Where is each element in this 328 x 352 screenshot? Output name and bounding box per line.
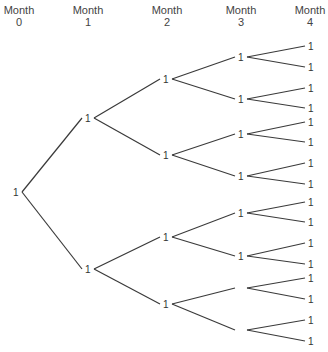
node-month4-11: 1 (308, 259, 314, 270)
branch-line (172, 79, 235, 99)
node-month4-3: 1 (308, 103, 314, 114)
branch-line (172, 237, 235, 256)
node-month4-1: 1 (308, 62, 314, 73)
node-month2-2: 1 (163, 232, 169, 243)
branch-line (94, 237, 160, 269)
node-month3-0: 1 (238, 52, 244, 63)
node-month2-1: 1 (163, 150, 169, 161)
node-month1-1: 1 (85, 264, 91, 275)
branch-line (247, 134, 305, 142)
branch-line (172, 304, 235, 330)
branch-line (247, 163, 305, 176)
node-month4-0: 1 (308, 41, 314, 52)
branch-line (247, 256, 305, 264)
node-month4-15: 1 (308, 336, 314, 347)
branch-line (247, 243, 305, 256)
node-month3-2: 1 (238, 129, 244, 140)
node-month3-3: 1 (238, 171, 244, 182)
node-month4-12: 1 (308, 273, 314, 284)
node-month4-8: 1 (308, 197, 314, 208)
branch-line (247, 46, 305, 57)
branch-line (247, 99, 305, 108)
branch-line (247, 213, 305, 222)
node-month4-7: 1 (308, 179, 314, 190)
node-month4-14: 1 (308, 315, 314, 326)
branch-line (94, 269, 160, 304)
branch-line (172, 288, 235, 304)
branch-line (247, 320, 305, 330)
branch-line (172, 155, 235, 176)
branch-line (247, 330, 305, 341)
branch-line (247, 88, 305, 99)
node-month3-4: 1 (238, 208, 244, 219)
node-month4-10: 1 (308, 238, 314, 249)
node-month4-6: 1 (308, 158, 314, 169)
tree-canvas: 11111111111111111111111111111 (0, 0, 328, 352)
branch-line (94, 79, 160, 118)
node-month4-4: 1 (308, 117, 314, 128)
branch-line (247, 57, 305, 67)
node-month4-2: 1 (308, 83, 314, 94)
branch-line (22, 118, 82, 192)
node-month2-3: 1 (163, 299, 169, 310)
branch-line (247, 202, 305, 213)
node-month1-0: 1 (85, 113, 91, 124)
node-month4-5: 1 (308, 137, 314, 148)
node-month2-0: 1 (163, 74, 169, 85)
branch-line (247, 122, 305, 134)
node-month3-5: 1 (238, 251, 244, 262)
branch-line (94, 118, 160, 155)
node-month4-9: 1 (308, 217, 314, 228)
branch-line (172, 134, 235, 155)
node-month3-1: 1 (238, 94, 244, 105)
branch-line (172, 57, 235, 79)
branch-line (172, 213, 235, 237)
node-month4-13: 1 (308, 294, 314, 305)
branch-line (247, 288, 305, 299)
branch-line (247, 176, 305, 184)
branch-line (22, 192, 82, 269)
branch-line (247, 278, 305, 288)
node-month0-0: 1 (13, 187, 19, 198)
